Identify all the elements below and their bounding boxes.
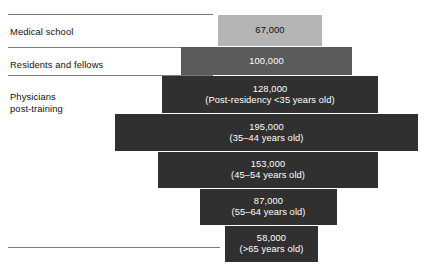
bar-sublabel: (>65 years old) xyxy=(240,244,304,255)
bar-value-label: 195,000 xyxy=(249,122,284,133)
bar-age-55-64: 87,000(55–64 years old) xyxy=(200,189,337,225)
bar-residents-and-fellows: 100,000 xyxy=(181,47,352,75)
category-label-0: Medical school xyxy=(10,26,73,38)
category-label-2: Physicians post-training xyxy=(10,91,63,114)
divider-rule-0 xyxy=(8,14,213,15)
bar-sublabel: (35–44 years old) xyxy=(229,133,303,144)
bar-value-label: 153,000 xyxy=(251,159,286,170)
bar-value-label: 58,000 xyxy=(257,233,286,244)
bar-age-over-65: 58,000(>65 years old) xyxy=(225,226,318,262)
bar-value-label: 67,000 xyxy=(255,25,284,36)
bar-value-label: 128,000 xyxy=(253,84,288,95)
category-label-1: Residents and fellows xyxy=(10,59,103,71)
bar-sublabel: (45–54 years old) xyxy=(231,170,305,181)
bar-age-45-54: 153,000(45–54 years old) xyxy=(158,152,378,188)
bar-post-residency-under-35: 128,000(Post-residency <35 years old) xyxy=(162,76,378,113)
bar-value-label: 100,000 xyxy=(249,56,284,67)
divider-rule-3 xyxy=(8,247,220,248)
bar-value-label: 87,000 xyxy=(254,196,283,207)
bar-medical-school: 67,000 xyxy=(218,15,322,46)
bar-sublabel: (Post-residency <35 years old) xyxy=(205,95,334,106)
bar-sublabel: (55–64 years old) xyxy=(231,207,305,218)
bar-age-35-44: 195,000(35–44 years old) xyxy=(115,114,418,151)
funnel-chart-figure: Medical schoolResidents and fellowsPhysi… xyxy=(0,0,431,277)
